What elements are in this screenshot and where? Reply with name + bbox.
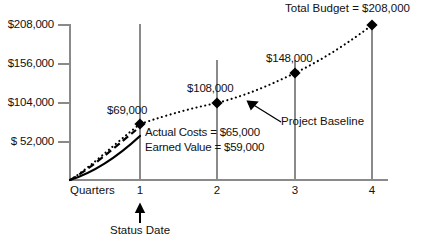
y-tick-label-104000: $104,000 (4, 97, 54, 109)
project-baseline-arrowhead (248, 101, 258, 109)
annotation-earned-value: Earned Value = $59,000 (145, 142, 264, 154)
y-axis-ticks (58, 25, 70, 142)
marker-q4 (366, 19, 377, 30)
series-project-baseline-markers (134, 19, 377, 129)
marker-q3 (289, 67, 300, 78)
annotation-total-budget: Total Budget = $208,000 (285, 3, 410, 15)
x-axis-label: Quarters (70, 185, 115, 197)
status-date-arrow (135, 203, 145, 224)
marker-q2 (211, 97, 222, 108)
annotation-status-date: Status Date (110, 225, 170, 237)
point-label-q2: $108,000 (187, 83, 233, 95)
evm-s-curve-chart: $208,000 $156,000 $104,000 $ 52,000 Quar… (0, 0, 432, 243)
x-tick-label-1: 1 (130, 185, 150, 197)
y-tick-label-208000: $208,000 (4, 19, 54, 31)
x-tick-label-3: 3 (285, 185, 305, 197)
y-tick-label-52000: $ 52,000 (4, 136, 54, 148)
x-tick-label-2: 2 (207, 185, 227, 197)
chart-canvas (0, 0, 432, 243)
status-date-arrowhead (135, 203, 145, 214)
x-tick-label-4: 4 (362, 185, 382, 197)
y-tick-label-156000: $156,000 (4, 58, 54, 70)
point-label-q1: $69,000 (107, 105, 147, 117)
project-baseline-leader (248, 101, 282, 122)
point-label-q3: $148,000 (266, 53, 312, 65)
marker-q1 (134, 118, 145, 129)
project-baseline-leader-line (252, 104, 281, 122)
annotation-actual-costs: Actual Costs = $65,000 (145, 127, 260, 139)
annotation-project-baseline: Project Baseline (281, 116, 364, 128)
